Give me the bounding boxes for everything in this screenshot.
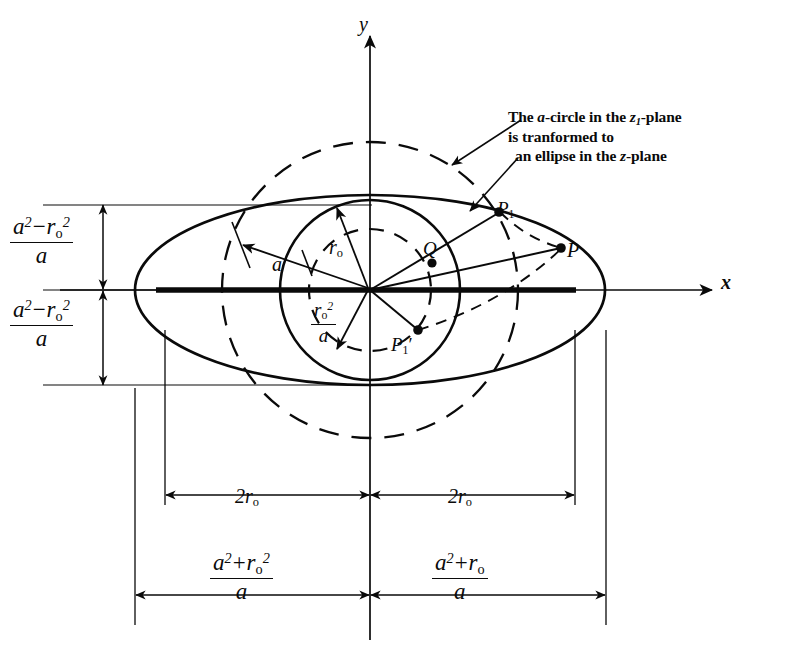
fraction-numerator: a2−ro2 xyxy=(10,215,73,242)
inner-radius-label: ro2 a xyxy=(311,300,336,346)
annotation-line2: is tranformed to xyxy=(508,128,784,146)
fraction-numerator: a2+ro2 xyxy=(210,551,273,578)
radius-label-a: a xyxy=(272,253,282,276)
dimension-2r0-label-right: 2ro xyxy=(448,485,472,510)
y-axis-label: y xyxy=(359,13,368,36)
fraction-denominator: a xyxy=(210,578,273,604)
ray-origin-to-P xyxy=(370,248,561,290)
conformal-mapping-diagram xyxy=(0,0,790,663)
arrow-a-radius xyxy=(243,245,368,288)
tick-a-circle xyxy=(232,222,250,268)
horizontal-dimension-label-left: a2+ro2 a xyxy=(210,551,273,605)
vertical-dimension-label-lower: a2−ro2 a xyxy=(10,298,73,352)
annotation-line3: an ellipse in the z-plane xyxy=(508,147,784,165)
x-axis-label: x xyxy=(721,271,731,294)
point-P1-prime xyxy=(413,325,423,335)
arrow-r0-squared-over-a xyxy=(337,290,368,349)
radius-label-r0: ro xyxy=(329,236,343,261)
dimension-2r0-label-left: 2ro xyxy=(235,485,259,510)
point-label-P1: P1 xyxy=(497,198,515,222)
fraction-numerator: ro2 xyxy=(311,300,336,324)
tick-a-label xyxy=(302,250,312,276)
ray-origin-to-P1prime xyxy=(370,290,418,330)
fraction-denominator: a xyxy=(432,578,488,604)
annotation-line1: The a-circle in the z1-plane xyxy=(508,108,682,125)
horizontal-dimension-label-right: a2+ro a xyxy=(432,551,488,605)
radius-annotation-arrows xyxy=(232,208,368,349)
ray-group xyxy=(370,212,561,330)
point-label-P: P xyxy=(567,239,579,262)
annotation-text: The a-circle in the z1-plane is tranform… xyxy=(508,108,784,165)
point-P xyxy=(556,243,566,253)
point-label-Q: Q xyxy=(423,238,437,260)
fraction-denominator: a xyxy=(311,324,336,346)
point-label-P1-prime: P1′ xyxy=(391,334,413,358)
fraction-numerator: a2+ro xyxy=(432,551,488,578)
fraction-numerator: a2−ro2 xyxy=(10,298,73,325)
fraction-denominator: a xyxy=(10,325,73,351)
vertical-dimension-label-upper: a2−ro2 a xyxy=(10,215,73,269)
fraction-denominator: a xyxy=(10,242,73,268)
